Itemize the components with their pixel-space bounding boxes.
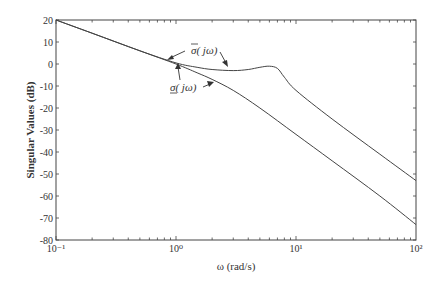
y-tick-label: 0: [48, 59, 53, 70]
y-tick-label: 10: [43, 37, 53, 48]
x-tick-label: 10⁰: [169, 243, 183, 254]
sigma-min-label: σ( jω): [170, 81, 197, 94]
y-tick-label: -30: [40, 125, 53, 136]
y-tick-label: -50: [40, 169, 53, 180]
x-tick-label: 10²: [410, 243, 423, 254]
plot-frame: [56, 20, 416, 240]
y-tick-label: 20: [43, 15, 53, 26]
y-tick-label: -60: [40, 191, 53, 202]
sigma-max-label: σ( jω): [191, 44, 218, 57]
sigma-min-curve: [56, 20, 416, 225]
y-tick-label: -40: [40, 147, 53, 158]
y-tick-label: -20: [40, 103, 53, 114]
x-axis-title: ω (rad/s): [217, 260, 256, 273]
x-tick-label: 10¹: [290, 243, 303, 254]
x-tick-labels: 10⁻¹10⁰10¹10²: [47, 243, 423, 254]
y-tick-label: -70: [40, 213, 53, 224]
y-tick-label: -10: [40, 81, 53, 92]
plot-axes: [56, 20, 416, 240]
x-tick-label: 10⁻¹: [47, 243, 65, 254]
singular-value-plot: 20100-10-20-30-40-50-60-70-80 10⁻¹10⁰10¹…: [0, 0, 435, 284]
axis-ticks: [56, 20, 416, 240]
sigma-max-curve: [56, 20, 416, 181]
y-tick-labels: 20100-10-20-30-40-50-60-70-80: [40, 15, 53, 246]
y-axis-title: Singular Values (dB): [24, 81, 37, 178]
curves: [56, 20, 416, 225]
annotations: σ( jω) σ( jω): [167, 44, 228, 94]
